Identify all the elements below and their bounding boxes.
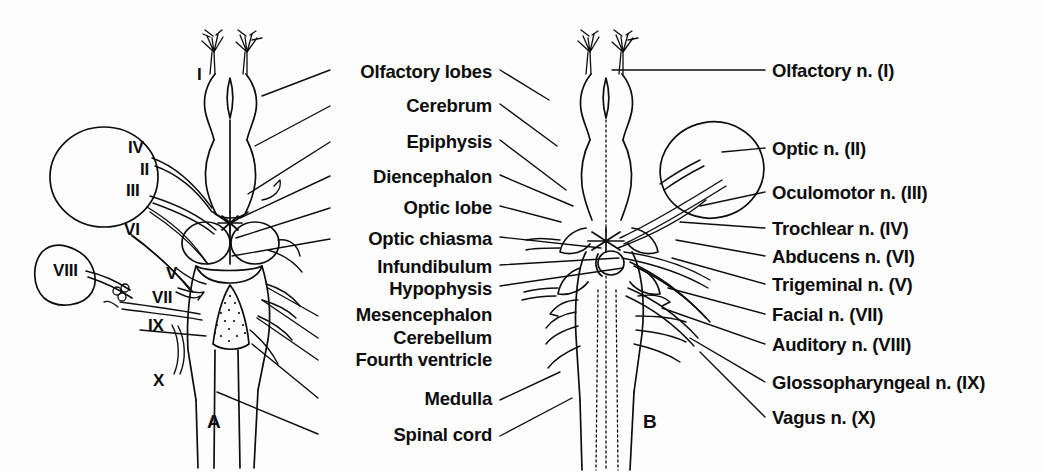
label-olfactory-nerve: Olfactory n. (I) (772, 62, 894, 81)
cerebellum (196, 266, 262, 283)
label-abducens-nerve: Abducens n. (VI) (772, 248, 915, 267)
panel-label-b: B (643, 412, 657, 431)
spinal-cord (196, 350, 258, 468)
medulla-right-b (632, 252, 643, 392)
label-facial-nerve: Facial n. (VII) (772, 306, 883, 325)
eye-ball-b (651, 112, 773, 228)
roman-numeral-v: V (166, 265, 177, 282)
olfactory-median (227, 78, 233, 118)
olfactory-lobe-right (246, 74, 257, 140)
label-cerebrum: Cerebrum (406, 97, 492, 116)
roman-numeral-viii: VIII (53, 262, 78, 279)
roman-numeral-ii: II (140, 161, 149, 178)
diagram-page: Olfactory lobes Cerebrum Epiphysis Dienc… (0, 0, 1043, 472)
label-olfactory-lobes: Olfactory lobes (360, 63, 492, 82)
label-vagus-nerve: Vagus n. (X) (772, 409, 875, 428)
cerebrum-right (245, 140, 256, 214)
spinal-cord-b (580, 392, 634, 470)
label-spinal-cord: Spinal cord (393, 426, 492, 445)
ganglion-cells (113, 284, 129, 301)
roman-numeral-iv: IV (128, 139, 144, 156)
cranial-nerves-a (104, 158, 216, 374)
label-mesencephalon: Mesencephalon (356, 306, 492, 325)
olfactory-lobe-right-b (622, 74, 633, 140)
optic-lobe-right (231, 222, 279, 264)
cerebrum-left (205, 140, 216, 214)
fourth-ventricle-stipple (214, 295, 246, 342)
label-fourth-ventricle: Fourth ventricle (355, 351, 492, 370)
label-infundibulum: Infundibulum (377, 258, 492, 277)
olfactory-lobe-left (204, 74, 215, 140)
panel-label-a: A (207, 412, 221, 431)
label-diencephalon: Diencephalon (373, 168, 492, 187)
roman-numeral-x: X (153, 372, 164, 389)
label-optic-nerve: Optic n. (II) (772, 140, 866, 159)
olfactory-median-b (603, 78, 609, 118)
olfactory-lobe-left-b (580, 74, 591, 140)
label-oculomotor-nerve: Oculomotor n. (III) (772, 184, 928, 203)
leader-lines-right (612, 70, 765, 417)
label-trochlear-nerve: Trochlear n. (IV) (772, 220, 908, 239)
roman-numeral-vii: VII (152, 289, 172, 306)
label-optic-chiasma: Optic chiasma (368, 230, 492, 249)
cerebrum-left-b (581, 140, 592, 220)
label-cerebellum: Cerebellum (393, 329, 492, 348)
ventral-sulcus-b (596, 276, 618, 470)
label-hypophysis: Hypophysis (389, 280, 492, 299)
roman-numeral-i: I (197, 66, 202, 83)
label-epiphysis: Epiphysis (406, 133, 492, 152)
label-glossopharyngeal-nerve: Glossopharyngeal n. (IX) (772, 374, 985, 393)
roman-numeral-vi: VI (124, 221, 140, 238)
olfactory-nerve-tuft-left (202, 30, 223, 74)
olfactory-nerve-tuft-left-b (578, 30, 599, 74)
label-trigeminal-nerve: Trigeminal n. (V) (772, 276, 913, 295)
fourth-ventricle (213, 285, 249, 349)
auditory-stalk (86, 271, 130, 290)
label-optic-lobe: Optic lobe (404, 199, 492, 218)
cerebrum-right-b (621, 140, 632, 220)
roman-numeral-ix: IX (148, 317, 164, 334)
label-auditory-nerve: Auditory n. (VIII) (772, 336, 911, 355)
roman-numeral-iii: III (126, 182, 140, 199)
label-medulla: Medulla (425, 390, 492, 409)
olfactory-nerve-tuft-right (236, 30, 262, 74)
olfactory-nerve-tuft-right-b (612, 30, 638, 74)
